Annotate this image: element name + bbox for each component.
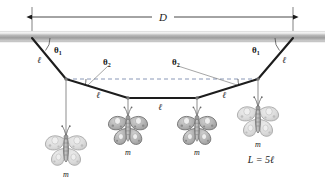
theta1-left-label: θ1: [54, 45, 62, 56]
segment-4-label: ℓ: [222, 90, 226, 100]
mass-label-4: m: [255, 140, 261, 149]
span-dimension: D: [32, 7, 293, 31]
theta2-left-label: θ2: [103, 57, 111, 68]
mass-label-2: m: [125, 148, 131, 157]
theta2-right-leader: [178, 66, 237, 85]
segment-1-label: ℓ: [37, 55, 41, 65]
figure-canvas: D: [0, 0, 325, 190]
mass-label-1: m: [63, 170, 69, 179]
angle-marks: [46, 38, 280, 86]
segment-3-label: ℓ: [158, 102, 162, 112]
segment-labels: ℓ ℓ ℓ ℓ ℓ: [37, 55, 286, 112]
segment-2-label: ℓ: [96, 90, 100, 100]
theta1-right-label: θ1: [252, 45, 260, 56]
theta2-right-label: θ2: [172, 57, 180, 68]
span-label: D: [158, 11, 167, 23]
mass-labels: m m m m: [63, 140, 261, 179]
physics-diagram: D: [0, 0, 325, 190]
ceiling-beam: [0, 31, 325, 42]
theta2-left-leader: [88, 66, 108, 85]
mass-label-3: m: [194, 148, 200, 157]
total-length-label: L = 5ℓ: [247, 154, 274, 165]
segment-5-label: ℓ: [282, 55, 286, 65]
theta-labels: θ1 θ1 θ2 θ2: [54, 45, 260, 68]
